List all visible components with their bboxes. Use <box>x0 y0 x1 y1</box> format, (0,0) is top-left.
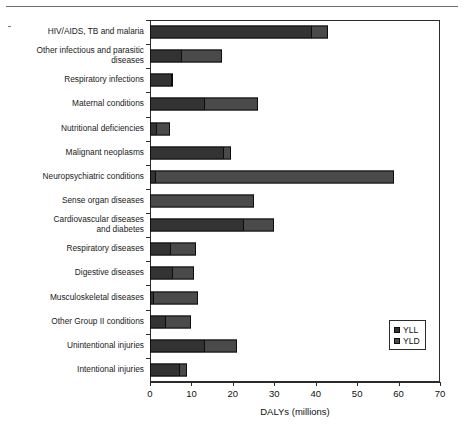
bar-row: Respiratory diseases <box>0 237 464 261</box>
bar-segment-yld <box>179 363 187 376</box>
x-axis-tick <box>150 382 151 386</box>
x-axis-line <box>150 382 440 383</box>
y-axis-tick <box>146 20 150 21</box>
legend-item-yll: YLL <box>394 324 420 335</box>
stacked-bar <box>150 122 170 135</box>
bar-row: Respiratory infections <box>0 68 464 92</box>
legend-label-yld: YLD <box>403 336 420 346</box>
stacked-bar <box>150 170 394 183</box>
x-axis-tick-label: 10 <box>176 388 206 399</box>
legend-swatch-yld-icon <box>394 338 400 344</box>
bar-segment-yll <box>150 267 172 280</box>
bar-segment-yll <box>150 146 223 159</box>
bar-segment-yll <box>150 339 204 352</box>
bar-segment-yld <box>170 243 195 256</box>
y-axis-tick <box>146 165 150 166</box>
bar-segment-yld <box>181 50 222 63</box>
x-axis-tick-label: 20 <box>218 388 248 399</box>
x-axis-tick <box>233 382 234 386</box>
stacked-bar <box>150 50 222 63</box>
stacked-bar <box>150 98 258 111</box>
category-label: Unintentional injuries <box>2 341 144 351</box>
category-label: Other infectious and parasitic diseases <box>2 47 144 66</box>
category-label: Maternal conditions <box>2 100 144 110</box>
y-axis-tick <box>146 285 150 286</box>
bar-segment-yld <box>204 98 258 111</box>
bar-segment-yld <box>153 291 198 304</box>
stacked-bar <box>150 74 173 87</box>
category-label: Respiratory diseases <box>2 244 144 254</box>
bar-segment-yld <box>171 74 173 87</box>
bar-segment-yll <box>150 315 165 328</box>
bar-segment-yld <box>311 26 328 39</box>
category-label: Sense organ diseases <box>2 196 144 206</box>
x-axis-tick-label: 60 <box>384 388 414 399</box>
bar-row: Other infectious and parasitic diseases <box>0 44 464 68</box>
category-label: Malignant neoplasms <box>2 148 144 158</box>
y-axis-tick <box>146 44 150 45</box>
y-axis-tick <box>146 261 150 262</box>
category-label: Neuropsychiatric conditions <box>2 172 144 182</box>
stacked-bar <box>150 315 191 328</box>
bar-segment-yld <box>243 219 274 232</box>
stacked-bar <box>150 26 328 39</box>
chart-legend: YLL YLD <box>389 320 426 350</box>
bar-row: Digestive diseases <box>0 261 464 285</box>
bar-segment-yld <box>165 315 192 328</box>
y-axis-tick <box>146 358 150 359</box>
bar-row: Maternal conditions <box>0 92 464 116</box>
bar-segment-yld <box>156 122 170 135</box>
bar-row: Neuropsychiatric conditions <box>0 165 464 189</box>
y-axis-tick <box>146 92 150 93</box>
bar-segment-yll <box>150 363 179 376</box>
stacked-bar <box>150 363 187 376</box>
legend-item-yld: YLD <box>394 335 420 346</box>
bar-segment-yll <box>150 219 243 232</box>
x-axis-tick <box>191 382 192 386</box>
legend-label-yll: YLL <box>403 325 418 335</box>
bar-segment-yld <box>172 267 194 280</box>
y-axis-tick <box>146 141 150 142</box>
stacked-bar <box>150 146 231 159</box>
bar-segment-yll <box>150 26 311 39</box>
y-axis-tick <box>146 117 150 118</box>
bar-row: Nutritional deficiencies <box>0 117 464 141</box>
stacked-bar <box>150 219 274 232</box>
bar-row: Intentional injuries <box>0 358 464 382</box>
x-axis-tick <box>274 382 275 386</box>
category-label: Nutritional deficiencies <box>2 124 144 134</box>
x-axis-tick-label: 50 <box>342 388 372 399</box>
bar-segment-yll <box>150 243 170 256</box>
y-axis-tick <box>146 189 150 190</box>
x-axis-tick-label: 40 <box>301 388 331 399</box>
x-axis-tick <box>440 382 441 386</box>
y-axis-tick <box>146 237 150 238</box>
y-axis-tick <box>146 68 150 69</box>
bar-segment-yld <box>155 170 394 183</box>
category-label: Intentional injuries <box>2 365 144 375</box>
bar-row: Malignant neoplasms <box>0 141 464 165</box>
stacked-bar <box>150 243 196 256</box>
page-top-rule <box>6 6 458 7</box>
bar-segment-yll <box>150 74 171 87</box>
category-label: Other Group II conditions <box>2 317 144 327</box>
stacked-bar <box>150 194 254 207</box>
bar-segment-yld <box>204 339 237 352</box>
stacked-bar <box>150 267 194 280</box>
bar-row: Cardiovascular diseases and diabetes <box>0 213 464 237</box>
bar-segment-yld <box>223 146 231 159</box>
x-axis-tick-label: 0 <box>135 388 165 399</box>
bar-row: Musculoskeletal diseases <box>0 285 464 309</box>
category-label: Cardiovascular diseases and diabetes <box>2 216 144 235</box>
y-axis-tick <box>146 213 150 214</box>
x-axis-tick <box>399 382 400 386</box>
y-axis-tick <box>146 334 150 335</box>
bar-row: HIV/AIDS, TB and malaria <box>0 20 464 44</box>
stacked-bar <box>150 291 198 304</box>
category-label: Respiratory infections <box>2 76 144 86</box>
category-label: HIV/AIDS, TB and malaria <box>2 27 144 37</box>
y-axis-tick <box>146 310 150 311</box>
category-label: Musculoskeletal diseases <box>2 293 144 303</box>
legend-swatch-yll-icon <box>394 327 400 333</box>
chart-figure: HIV/AIDS, TB and malariaOther infectious… <box>0 0 464 435</box>
